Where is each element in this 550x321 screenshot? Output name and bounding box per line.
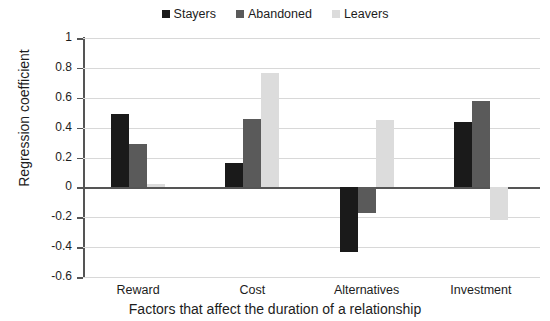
legend-item-stayers: Stayers bbox=[162, 8, 216, 21]
bar-group-cost bbox=[225, 38, 279, 277]
bar-abandoned-investment[interactable] bbox=[472, 101, 490, 188]
bar-chart: Stayers Abandoned Leavers 10.80.60.40.20… bbox=[0, 0, 550, 321]
y-axis-tick-label: -0.2 bbox=[30, 209, 72, 223]
legend-item-abandoned: Abandoned bbox=[236, 8, 312, 21]
legend-swatch-abandoned bbox=[236, 10, 244, 18]
y-axis-tick-label: -0.6 bbox=[30, 269, 72, 283]
y-axis-tick-label: 0.6 bbox=[30, 90, 72, 104]
bar-abandoned-reward[interactable] bbox=[129, 144, 147, 187]
bar-stayers-cost[interactable] bbox=[225, 163, 243, 187]
bar-group-investment bbox=[454, 38, 508, 277]
legend-label-stayers: Stayers bbox=[174, 8, 216, 21]
legend-label-abandoned: Abandoned bbox=[248, 8, 312, 21]
bar-stayers-alternatives[interactable] bbox=[340, 187, 358, 251]
y-axis-tick-label: 0.4 bbox=[30, 120, 72, 134]
legend-item-leavers: Leavers bbox=[332, 8, 388, 21]
bar-group-alternatives bbox=[340, 38, 394, 277]
legend-swatch-leavers bbox=[332, 10, 340, 18]
bar-stayers-reward[interactable] bbox=[111, 114, 129, 187]
bar-stayers-investment[interactable] bbox=[454, 122, 472, 188]
y-axis-tick-label: 1 bbox=[30, 30, 72, 44]
x-axis-label-investment: Investment bbox=[450, 283, 511, 297]
bar-group-reward bbox=[111, 38, 165, 277]
y-axis-tick-label: 0 bbox=[30, 179, 72, 193]
legend-label-leavers: Leavers bbox=[344, 8, 388, 21]
x-axis-label-alternatives: Alternatives bbox=[334, 283, 399, 297]
y-axis-tick-label: 0.8 bbox=[30, 60, 72, 74]
chart-legend: Stayers Abandoned Leavers bbox=[0, 8, 550, 21]
bar-leavers-alternatives[interactable] bbox=[376, 120, 394, 187]
bar-leavers-reward[interactable] bbox=[147, 184, 165, 187]
bar-leavers-cost[interactable] bbox=[261, 73, 279, 187]
y-axis-tick-label: -0.4 bbox=[30, 239, 72, 253]
legend-swatch-stayers bbox=[162, 10, 170, 18]
y-axis-tick-label: 0.2 bbox=[30, 150, 72, 164]
gridline bbox=[83, 277, 540, 278]
y-axis-title: Regression coefficient bbox=[16, 18, 32, 218]
x-axis-label-reward: Reward bbox=[117, 283, 160, 297]
bar-abandoned-cost[interactable] bbox=[243, 119, 261, 187]
bar-abandoned-alternatives[interactable] bbox=[358, 187, 376, 212]
x-axis-label-cost: Cost bbox=[240, 283, 266, 297]
plot-area bbox=[83, 38, 540, 277]
bar-leavers-investment[interactable] bbox=[490, 187, 508, 220]
x-axis-title: Factors that affect the duration of a re… bbox=[0, 301, 550, 317]
bar-groups bbox=[83, 38, 540, 277]
